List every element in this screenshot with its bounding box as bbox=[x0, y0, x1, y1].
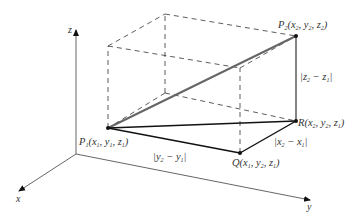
label-x-diff: |x2 − x1| bbox=[274, 136, 307, 148]
point-p1 bbox=[106, 126, 110, 130]
point-p2 bbox=[294, 34, 298, 38]
segment-p1-r bbox=[108, 121, 296, 128]
y-axis bbox=[76, 154, 310, 200]
label-z-diff: |z2 − z1| bbox=[300, 71, 332, 83]
segment-p1-p2 bbox=[108, 36, 296, 128]
point-q bbox=[238, 151, 242, 155]
label-p2: P2(x2, y2, z2) bbox=[277, 19, 328, 31]
label-q: Q(x1, y2, z1) bbox=[232, 157, 280, 169]
y-axis-label: y bbox=[306, 201, 312, 212]
x-axis-label: x bbox=[15, 193, 21, 204]
z-axis-label: z bbox=[67, 24, 72, 35]
solid-segments bbox=[108, 36, 296, 153]
dashed-box bbox=[108, 14, 296, 153]
x-axis bbox=[19, 154, 76, 191]
label-p1: P1(x1, y1, z1) bbox=[78, 136, 129, 148]
distance-diagram: z x y P2(x2, y2, z2) P1(x1, y1, z1) R(x2… bbox=[0, 0, 360, 223]
label-y-diff: |y2 − y1| bbox=[153, 151, 186, 163]
label-r: R(x2, y2, z1) bbox=[297, 117, 345, 129]
